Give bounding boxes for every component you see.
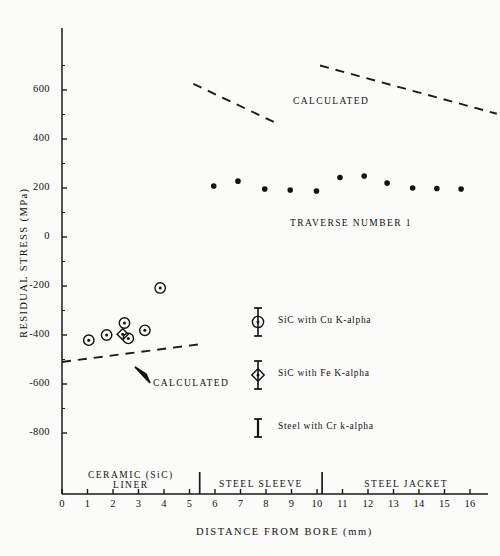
- data-point-s2-1: [235, 178, 241, 184]
- y-tick-label-400: 400: [0, 132, 50, 143]
- y-tick-label-600: 600: [0, 83, 50, 94]
- legend-label-2: Steel with Cr k-alpha: [278, 421, 374, 431]
- region-label-1: STEEL SLEEVE: [189, 479, 333, 489]
- data-point-s2-9: [434, 186, 440, 192]
- y-axis-title: RESIDUAL STRESS (MPa): [18, 188, 29, 338]
- data-point-s2-5: [337, 175, 343, 181]
- x-tick-label-14: 14: [407, 498, 431, 509]
- x-tick-label-2: 2: [101, 498, 125, 509]
- region-label-0: CERAMIC (SiC)LINER: [59, 470, 203, 490]
- x-tick-label-1: 1: [76, 498, 100, 509]
- x-tick-label-16: 16: [458, 498, 482, 509]
- legend-label-1: SiC with Fe K-alpha: [278, 368, 370, 378]
- region-label-2: STEEL JACKET: [334, 479, 478, 489]
- data-point-s2-3: [287, 187, 293, 193]
- x-tick-label-7: 7: [229, 498, 253, 509]
- data-point-s2-8: [410, 185, 416, 191]
- y-tick-label--600: -600: [0, 377, 50, 388]
- x-tick-label-0: 0: [50, 498, 74, 509]
- chart-figure: 6004002000-200-400-600-80001234567891011…: [0, 0, 500, 556]
- data-point-s0-0: [84, 335, 94, 345]
- x-tick-label-6: 6: [203, 498, 227, 509]
- legend-symbol-2: [254, 419, 262, 437]
- data-point-s0-1: [101, 330, 111, 340]
- region-label-line: CERAMIC (SiC): [59, 470, 203, 480]
- data-point-s0-5: [155, 283, 165, 293]
- annotation-1: TRAVERSE NUMBER 1: [290, 218, 412, 228]
- x-tick-label-8: 8: [254, 498, 278, 509]
- x-tick-label-12: 12: [356, 498, 380, 509]
- data-point-s2-6: [361, 173, 367, 179]
- data-point-s2-4: [314, 188, 320, 194]
- x-tick-label-3: 3: [127, 498, 151, 509]
- legend-label-0: SiC with Cu K-alpha: [278, 315, 371, 325]
- x-tick-label-15: 15: [433, 498, 457, 509]
- data-point-s2-0: [211, 183, 217, 189]
- annotation-2: CALCULATED: [153, 378, 229, 388]
- calculated-upper-left: [193, 84, 276, 123]
- data-point-s0-2: [119, 318, 129, 328]
- x-tick-label-13: 13: [382, 498, 406, 509]
- data-point-s2-7: [384, 180, 390, 186]
- calculated-lower: [62, 344, 201, 362]
- x-tick-label-10: 10: [305, 498, 329, 509]
- x-tick-label-5: 5: [178, 498, 202, 509]
- x-tick-label-4: 4: [152, 498, 176, 509]
- x-tick-label-11: 11: [331, 498, 355, 509]
- data-point-s2-2: [262, 186, 268, 192]
- annotation-0: CALCULATED: [293, 96, 369, 106]
- region-label-line: STEEL SLEEVE: [189, 479, 333, 489]
- data-point-s0-4: [140, 325, 150, 335]
- data-point-s2-10: [458, 186, 464, 192]
- region-label-line: LINER: [59, 480, 203, 490]
- calculated-upper-right: [320, 66, 497, 114]
- calculated-arrow-icon: [135, 367, 150, 383]
- region-label-line: STEEL JACKET: [334, 479, 478, 489]
- x-tick-label-9: 9: [280, 498, 304, 509]
- x-axis-title: DISTANCE FROM BORE (mm): [196, 526, 373, 537]
- y-tick-label--800: -800: [0, 426, 50, 437]
